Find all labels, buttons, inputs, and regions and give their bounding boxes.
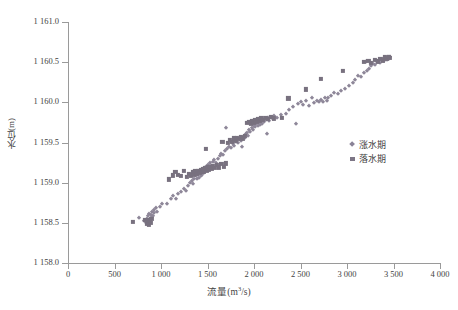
x-tick-label: 1 500 [198, 270, 217, 279]
x-tick-label: 0 [66, 270, 70, 279]
legend-label-rising: 涨水期 [359, 140, 386, 150]
y-tick-label: 1 160.0 [34, 97, 60, 106]
x-tick-label: 4 000 [430, 270, 449, 279]
legend-item-falling[interactable]: 落水期 [347, 152, 409, 166]
x-tick-label: 500 [108, 270, 121, 279]
x-tick-label: 3 000 [337, 270, 356, 279]
x-tick-label: 3 500 [384, 270, 403, 279]
data-point-rising [184, 188, 189, 193]
data-point-rising [164, 202, 169, 207]
legend-item-rising[interactable]: 涨水期 [347, 138, 409, 152]
data-point-falling [149, 217, 153, 221]
data-point-rising [155, 209, 160, 214]
scatter-chart-figure: 1 158.01 158.51 159.01 159.51 160.01 160… [0, 0, 458, 310]
data-point-falling [319, 77, 323, 81]
data-point-falling [362, 60, 366, 64]
data-point-rising [136, 216, 141, 221]
x-axis-title: 流量(m3/s) [0, 283, 458, 298]
data-point-rising [224, 126, 229, 131]
y-tick-label: 1 161.0 [34, 17, 60, 26]
x-tick-label: 2 000 [244, 270, 263, 279]
data-point-falling [179, 174, 183, 178]
y-tick-label: 1 158.0 [34, 258, 60, 267]
data-point-rising [221, 153, 226, 158]
data-point-falling [224, 161, 228, 165]
data-point-falling [341, 69, 345, 73]
data-point-rising [173, 196, 178, 201]
legend-label-falling: 落水期 [359, 154, 386, 164]
data-point-falling [167, 177, 171, 181]
x-tick-label: 1 000 [151, 270, 170, 279]
x-axis-title-tail: /s) [241, 287, 251, 297]
data-point-falling [243, 134, 247, 138]
data-point-rising [304, 98, 309, 103]
y-tick-label: 1 158.5 [34, 218, 60, 227]
data-point-falling [388, 56, 392, 60]
data-point-rising [240, 145, 245, 150]
data-point-falling [204, 147, 208, 151]
data-point-falling [148, 221, 152, 225]
data-point-rising [306, 103, 311, 108]
data-point-rising [191, 182, 196, 187]
data-point-falling [304, 87, 308, 91]
y-tick-label: 1 159.0 [34, 178, 60, 187]
data-point-rising [265, 132, 270, 137]
data-point-falling [220, 140, 224, 144]
x-axis-title-main: 流量(m [207, 287, 238, 297]
data-point-falling [286, 96, 290, 100]
square-marker-icon [347, 153, 359, 165]
diamond-marker-icon [347, 139, 359, 151]
data-point-rising [343, 87, 348, 92]
data-point-rising [359, 75, 364, 80]
data-point-rising [293, 122, 298, 127]
data-point-falling [182, 169, 186, 173]
y-tick-label: 1 160.5 [34, 57, 60, 66]
data-point-rising [287, 108, 292, 113]
chart-legend: 涨水期 落水期 [347, 138, 409, 166]
y-tick-label: 1 159.5 [34, 138, 60, 147]
data-point-falling [131, 220, 135, 224]
data-point-falling [272, 116, 276, 120]
data-point-falling [280, 116, 284, 120]
x-tick-label: 2 500 [291, 270, 310, 279]
y-axis-title: 水位(m) [6, 118, 16, 149]
data-point-rising [291, 105, 296, 110]
